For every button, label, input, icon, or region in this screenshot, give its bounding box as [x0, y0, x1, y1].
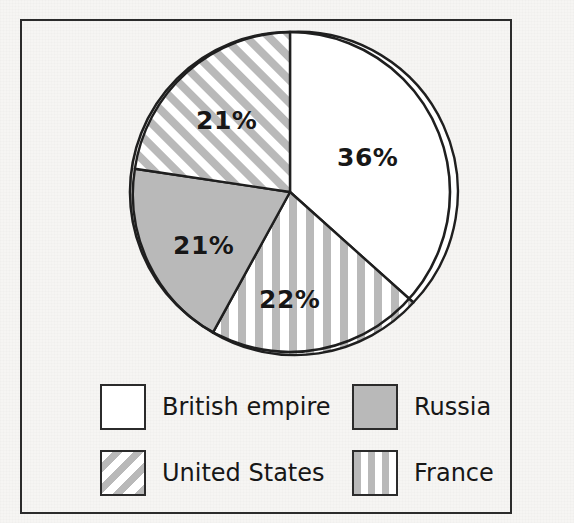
legend-item-united-states: United States [100, 450, 325, 496]
legend-swatch-united-states [100, 450, 146, 496]
legend-item-france: France [352, 450, 494, 496]
legend-swatch-british-empire [100, 384, 146, 430]
legend-label-france: France [414, 459, 494, 487]
legend-label-russia: Russia [414, 393, 491, 421]
legend-label-united-states: United States [162, 459, 325, 487]
legend-swatch-russia [352, 384, 398, 430]
legend-label-british-empire: British empire [162, 393, 331, 421]
pie-label-british-empire: 36% [337, 143, 398, 172]
legend-item-russia: Russia [352, 384, 491, 430]
pie-label-russia: 21% [173, 231, 234, 260]
pie-label-france: 22% [259, 285, 320, 314]
legend-swatch-france [352, 450, 398, 496]
pie-label-united-states: 21% [196, 106, 257, 135]
legend-item-british-empire: British empire [100, 384, 331, 430]
chart-legend: British empire Russia United States Fran… [100, 384, 500, 504]
